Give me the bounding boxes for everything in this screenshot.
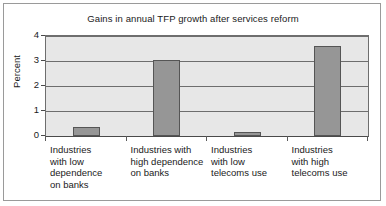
y-tick-label-0: 0 xyxy=(17,130,39,140)
x-category-label-line: with low xyxy=(211,156,286,168)
x-category-label-line: Industries with xyxy=(131,144,206,156)
x-category-label: Industrieswith lowtelecoms use xyxy=(211,144,286,179)
chart-figure: Gains in annual TFP growth after service… xyxy=(3,3,381,201)
bar xyxy=(73,127,100,136)
bar xyxy=(314,46,341,136)
x-tick-mark xyxy=(45,136,46,141)
x-category-label-line: dependence xyxy=(50,167,125,179)
x-category-label-line: with high xyxy=(292,156,367,168)
bar xyxy=(234,132,261,136)
x-tick-mark xyxy=(126,136,127,141)
y-axis-title: Percent xyxy=(11,43,22,101)
x-category-label: Industrieswith lowdependenceon banks xyxy=(50,144,125,190)
x-category-label-line: Industries xyxy=(211,144,286,156)
y-tick-label-4: 4 xyxy=(17,30,39,40)
bars-layer xyxy=(46,36,368,136)
x-category-label-line: Industries xyxy=(292,144,367,156)
y-tick-label-1: 1 xyxy=(17,105,39,115)
bar xyxy=(153,60,180,136)
y-tick-label-3: 3 xyxy=(17,55,39,65)
x-category-label-line: Industries xyxy=(50,144,125,156)
x-tick-mark xyxy=(206,136,207,141)
x-category-label: Industries withhigh dependenceon banks xyxy=(131,144,206,179)
x-category-label-line: with low xyxy=(50,156,125,168)
x-category-label-line: high dependence xyxy=(131,156,206,168)
x-tick-mark xyxy=(287,136,288,141)
x-category-label-line: telecoms use xyxy=(292,167,367,179)
x-category-label-line: telecoms use xyxy=(211,167,286,179)
x-category-label: Industrieswith hightelecoms use xyxy=(292,144,367,179)
plot-area xyxy=(45,35,369,137)
chart-title: Gains in annual TFP growth after service… xyxy=(4,13,382,24)
x-category-label-line: on banks xyxy=(50,179,125,191)
x-category-label-line: on banks xyxy=(131,167,206,179)
y-tick-label-2: 2 xyxy=(17,80,39,90)
x-tick-mark xyxy=(367,136,368,141)
